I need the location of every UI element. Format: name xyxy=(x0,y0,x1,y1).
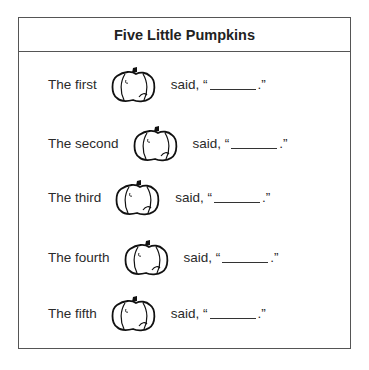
row-said: said, “ xyxy=(175,190,212,205)
row-prefix: The fourth xyxy=(48,250,110,265)
row-end: .” xyxy=(258,77,266,92)
row-prefix: The fifth xyxy=(48,306,97,321)
row-said: said, “ xyxy=(184,250,221,265)
worksheet-title: Five Little Pumpkins xyxy=(19,18,350,52)
row-prefix: The third xyxy=(48,190,101,205)
pumpkin-icon xyxy=(113,177,163,217)
row-fifth: The fifth said, “ .” xyxy=(48,293,266,333)
answer-blank[interactable] xyxy=(222,252,268,263)
row-second: The second said, “ .” xyxy=(48,123,288,163)
answer-blank[interactable] xyxy=(210,79,256,90)
row-first: The first said, “ .” xyxy=(48,64,266,104)
row-prefix: The first xyxy=(48,77,97,92)
pumpkin-icon xyxy=(109,64,159,104)
answer-blank[interactable] xyxy=(210,308,256,319)
row-fourth: The fourth said, “ .” xyxy=(48,237,279,277)
row-third: The third said, “ .” xyxy=(48,177,270,217)
row-end: .” xyxy=(262,190,270,205)
pumpkin-icon xyxy=(131,123,181,163)
row-end: .” xyxy=(279,136,287,151)
row-said: said, “ xyxy=(193,136,230,151)
pumpkin-icon xyxy=(109,293,159,333)
row-end: .” xyxy=(270,250,278,265)
answer-blank[interactable] xyxy=(231,138,277,149)
answer-blank[interactable] xyxy=(214,192,260,203)
row-said: said, “ xyxy=(171,306,208,321)
row-end: .” xyxy=(258,306,266,321)
pumpkin-icon xyxy=(122,237,172,277)
row-said: said, “ xyxy=(171,77,208,92)
row-prefix: The second xyxy=(48,136,119,151)
